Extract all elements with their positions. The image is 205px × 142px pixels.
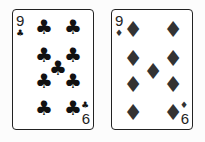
diamond-icon: ♦ (163, 48, 183, 70)
diamond-icon: ♦ (123, 102, 143, 124)
diamond-icon: ♦ (123, 74, 143, 96)
club-icon: ♣ (16, 29, 24, 38)
card-rank-top: 9 (16, 13, 24, 28)
diamond-icon: ♦ (163, 19, 183, 41)
card-nine-of-clubs[interactable]: 9 ♣ ♣ ♣ ♣ ♣ ♣ ♣ ♣ ♣ ♣ ♣ 6 (12, 9, 94, 130)
diamond-icon: ♦ (115, 29, 123, 38)
club-icon: ♣ (35, 98, 53, 118)
club-icon: ♣ (64, 71, 82, 91)
diamond-icon: ♦ (123, 48, 143, 70)
diamond-icon: ♦ (123, 19, 143, 41)
club-icon: ♣ (81, 101, 89, 110)
club-icon: ♣ (35, 71, 53, 91)
card-rank-top: 9 (115, 13, 123, 28)
card-nine-of-diamonds[interactable]: 9 ♦ ♦ ♦ ♦ ♦ ♦ ♦ ♦ ♦ ♦ ♦ 6 (111, 9, 193, 130)
diamond-icon: ♦ (143, 61, 163, 83)
card-rank-bottom: 6 (181, 111, 189, 126)
club-icon: ♣ (64, 98, 82, 118)
club-icon: ♣ (35, 17, 53, 37)
diamond-icon: ♦ (180, 101, 188, 110)
card-rank-bottom: 6 (82, 111, 90, 126)
club-icon: ♣ (64, 17, 82, 37)
diamond-icon: ♦ (163, 74, 183, 96)
